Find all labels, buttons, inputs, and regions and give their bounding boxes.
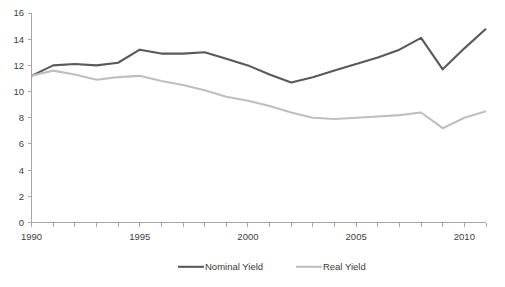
y-tick-label: 14	[13, 34, 24, 45]
chart-canvas: 0246810121416 19901995200020052010 Nomin…	[0, 0, 505, 287]
line-chart: 0246810121416 19901995200020052010 Nomin…	[0, 0, 505, 287]
x-tick-label: 1995	[129, 231, 150, 242]
legend-label-real-yield: Real Yield	[323, 261, 366, 272]
y-tick-label: 16	[13, 7, 24, 18]
y-tick-label: 10	[13, 86, 24, 97]
y-tick-label: 2	[19, 191, 24, 202]
series-line-real-yield	[32, 71, 487, 129]
y-tick-label: 6	[19, 138, 24, 149]
x-tick-label: 2000	[237, 231, 258, 242]
x-axis-ticks	[32, 223, 487, 228]
y-tick-label: 8	[19, 112, 24, 123]
y-axis-ticks	[28, 13, 32, 223]
legend-label-nominal-yield: Nominal Yield	[205, 261, 263, 272]
chart-legend: Nominal YieldReal Yield	[178, 261, 366, 272]
y-tick-label: 12	[13, 60, 24, 71]
series-line-nominal-yield	[32, 29, 487, 83]
y-tick-label: 0	[19, 217, 24, 228]
x-tick-label: 1990	[21, 231, 42, 242]
y-axis-tick-labels: 0246810121416	[13, 7, 24, 228]
x-axis-tick-labels: 19901995200020052010	[21, 231, 475, 242]
x-tick-label: 2010	[454, 231, 475, 242]
x-tick-label: 2005	[346, 231, 367, 242]
y-tick-label: 4	[19, 165, 24, 176]
